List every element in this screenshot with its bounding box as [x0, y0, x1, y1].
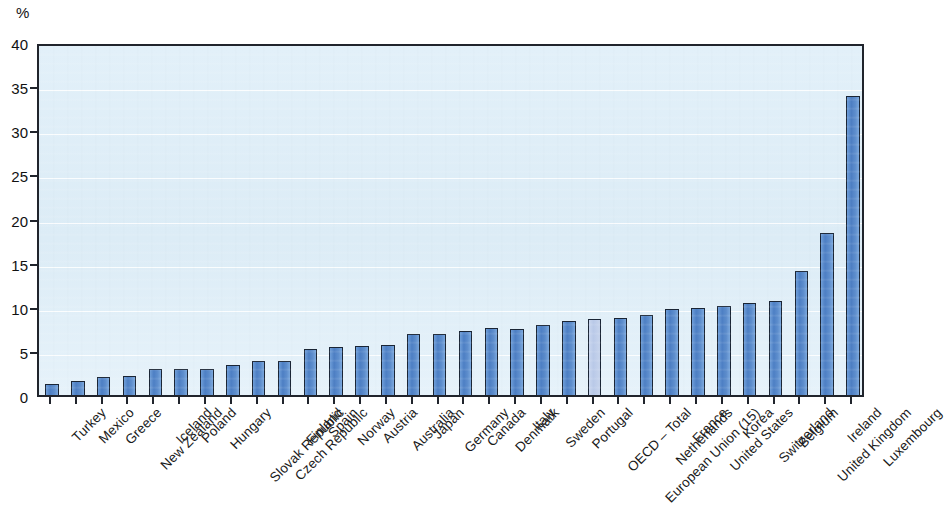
x-axis-tick-mark [230, 397, 232, 404]
x-axis-tick-mark [824, 397, 826, 404]
bar[interactable] [691, 308, 705, 395]
bar[interactable] [846, 96, 860, 395]
bar[interactable] [45, 384, 59, 395]
bar[interactable] [355, 346, 369, 395]
x-axis-tick-mark [592, 397, 594, 404]
bar[interactable] [329, 347, 343, 395]
bar[interactable] [665, 309, 679, 395]
bar[interactable] [743, 303, 757, 395]
y-axis-tick-mark [30, 175, 37, 177]
bar[interactable] [562, 321, 576, 395]
x-axis-tick-mark [411, 397, 413, 404]
x-axis-tick-mark [721, 397, 723, 404]
x-axis-tick-mark [385, 397, 387, 404]
x-axis-tick-mark [643, 397, 645, 404]
gridline [39, 267, 862, 268]
x-axis-tick-mark [333, 397, 335, 404]
y-axis-tick-mark [30, 308, 37, 310]
x-axis-tick-mark [540, 397, 542, 404]
y-axis-tick-mark [30, 352, 37, 354]
x-axis-tick-mark [462, 397, 464, 404]
bar[interactable] [536, 325, 550, 395]
y-axis-tick-label: 40 [0, 36, 28, 53]
x-axis-tick-mark [178, 397, 180, 404]
x-axis-tick-mark [152, 397, 154, 404]
x-axis-tick-mark [437, 397, 439, 404]
y-axis-tick-mark [30, 87, 37, 89]
x-axis-tick-mark [798, 397, 800, 404]
bar[interactable] [433, 334, 447, 395]
x-axis-tick-mark [256, 397, 258, 404]
y-axis-tick-label: 15 [0, 256, 28, 273]
y-axis-tick-mark [30, 220, 37, 222]
x-axis-tick-mark [566, 397, 568, 404]
x-axis-tick-mark [49, 397, 51, 404]
bar[interactable] [200, 369, 214, 395]
y-axis-tick-label: 25 [0, 168, 28, 185]
bar[interactable] [717, 306, 731, 395]
x-axis-tick-mark [75, 397, 77, 404]
x-axis-tick-mark [126, 397, 128, 404]
x-axis-tick-mark [204, 397, 206, 404]
x-axis-tick-mark [488, 397, 490, 404]
plot-area [37, 44, 864, 397]
gridline [39, 223, 862, 224]
bar[interactable] [304, 349, 318, 395]
x-axis-tick-mark [617, 397, 619, 404]
bar[interactable] [252, 361, 266, 395]
x-axis-tick-mark [101, 397, 103, 404]
bar[interactable] [97, 377, 111, 395]
y-axis-tick-mark [30, 131, 37, 133]
y-axis-unit-label: % [16, 4, 30, 21]
y-axis-tick-label: 30 [0, 124, 28, 141]
bar[interactable] [123, 376, 137, 395]
bar[interactable] [381, 345, 395, 395]
y-axis-tick-mark [30, 264, 37, 266]
y-axis-tick-label: 20 [0, 212, 28, 229]
y-axis-tick-label: 35 [0, 80, 28, 97]
y-axis-tick-label: 10 [0, 300, 28, 317]
bar[interactable] [278, 361, 292, 395]
gridline [39, 178, 862, 179]
x-axis-tick-mark [359, 397, 361, 404]
bar[interactable] [769, 301, 783, 395]
x-axis-tick-mark [307, 397, 309, 404]
gridline [39, 355, 862, 356]
bar[interactable] [820, 233, 834, 395]
bar[interactable] [510, 329, 524, 395]
x-axis-tick-mark [695, 397, 697, 404]
bar[interactable] [588, 319, 602, 395]
bar[interactable] [174, 369, 188, 395]
bar[interactable] [459, 331, 473, 395]
bar[interactable] [71, 381, 85, 395]
x-axis-tick-mark [850, 397, 852, 404]
gridline [39, 134, 862, 135]
bar[interactable] [795, 271, 809, 395]
bar[interactable] [640, 315, 654, 395]
x-axis-tick-mark [773, 397, 775, 404]
bar[interactable] [485, 328, 499, 395]
x-axis-tick-mark [282, 397, 284, 404]
bar[interactable] [614, 318, 628, 395]
bar[interactable] [149, 369, 163, 395]
x-axis-tick-mark [669, 397, 671, 404]
y-axis-tick-label: 5 [0, 344, 28, 361]
gridline [39, 90, 862, 91]
x-axis-tick-mark [514, 397, 516, 404]
y-axis-tick-label: 0 [0, 389, 28, 406]
bar[interactable] [226, 365, 240, 395]
x-axis-tick-mark [747, 397, 749, 404]
gridline [39, 311, 862, 312]
bar[interactable] [407, 334, 421, 395]
